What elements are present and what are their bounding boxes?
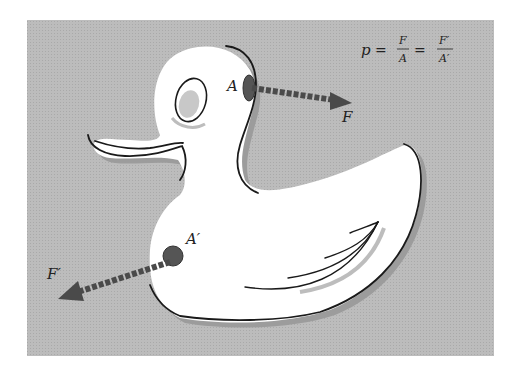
duck-pressure-diagram: A F A′ F′ p = F A = F′ A′ xyxy=(0,0,517,380)
label-force-bottom: F′ xyxy=(46,265,61,283)
svg-text:F′: F′ xyxy=(438,34,450,47)
svg-text:=: = xyxy=(414,42,426,58)
svg-text:A: A xyxy=(398,52,407,65)
svg-text:p: p xyxy=(361,41,371,59)
label-area-top: A xyxy=(225,77,238,95)
svg-text:A′: A′ xyxy=(438,52,450,65)
label-force-top: F xyxy=(341,108,353,126)
label-area-bottom: A′ xyxy=(184,230,201,248)
svg-text:F: F xyxy=(398,34,407,47)
svg-text:=: = xyxy=(375,42,387,58)
